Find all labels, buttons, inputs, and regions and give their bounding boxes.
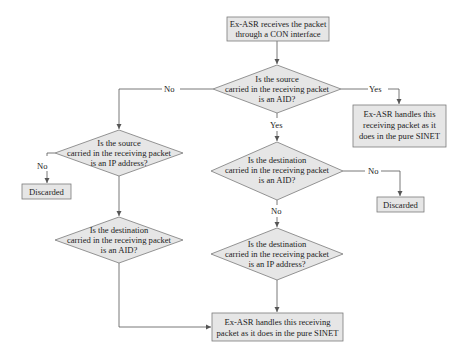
- edge-source-aid-no-b: [119, 89, 162, 129]
- edge-dest-aid-left-to-bottom: [119, 263, 211, 327]
- decision-source-ip-line-2: carried in the receiving packet: [67, 148, 172, 158]
- node-start-line-1: Ex-ASR receives the packet: [230, 19, 327, 29]
- decision-dest-aid-left-line-3: is an AID?: [101, 245, 138, 255]
- node-discarded-left-text: Discarded: [29, 187, 65, 197]
- decision-dest-ip-line-3: is an IP address?: [248, 259, 305, 269]
- decision-dest-ip-line-1: Is the destination: [248, 239, 307, 249]
- node-handle-right-line-1: Ex-ASR handles this: [363, 109, 436, 119]
- decision-source-ip-line-3: is an IP address?: [90, 158, 147, 168]
- node-handle-right-line-2: receiving packet as it: [363, 120, 436, 130]
- decision-dest-ip-line-2: carried in the receiving packet: [225, 249, 330, 259]
- decision-dest-aid-left-line-1: Is the destination: [90, 225, 149, 235]
- decision-dest-ip: Is the destination carried in the receiv…: [211, 228, 343, 280]
- node-start-box: Ex-ASR receives the packet through a CON…: [227, 17, 329, 41]
- node-discarded-right: Discarded: [377, 197, 424, 212]
- node-discarded-left: Discarded: [22, 184, 71, 199]
- node-handle-right-line-3: does in the pure SINET: [359, 131, 441, 141]
- node-handle-pure-sinet-right: Ex-ASR handles this receiving packet as …: [353, 105, 446, 147]
- decision-source-aid: Is the source carried in the receiving p…: [213, 65, 341, 113]
- decision-source-aid-line-3: is an AID?: [259, 94, 296, 104]
- decision-dest-aid-mid-line-3: is an AID?: [259, 175, 296, 185]
- decision-source-ip: Is the source carried in the receiving p…: [55, 130, 183, 176]
- label-source-aid-yes-down: Yes: [270, 120, 283, 130]
- edge-source-ip-no-a: [47, 153, 55, 156]
- label-dest-aid-mid-no-right: No: [368, 166, 379, 176]
- decision-source-aid-line-2: carried in the receiving packet: [225, 84, 330, 94]
- decision-source-aid-line-1: Is the source: [255, 74, 299, 84]
- decision-dest-aid-left-line-2: carried in the receiving packet: [67, 235, 172, 245]
- node-discarded-right-text: Discarded: [383, 200, 419, 210]
- label-dest-aid-mid-no-down: No: [271, 206, 282, 216]
- label-source-ip-no: No: [37, 161, 48, 171]
- node-handle-pure-sinet-bottom: Ex-ASR handles this receiving packet as …: [212, 313, 343, 341]
- label-source-aid-yes-right: Yes: [369, 84, 382, 94]
- node-handle-bottom-line-1: Ex-ASR handles this receiving: [224, 317, 331, 327]
- edge-source-aid-yes-right-b: [388, 89, 399, 104]
- node-start-line-2: through a CON interface: [235, 29, 320, 39]
- decision-dest-aid-mid: Is the destination carried in the receiv…: [211, 142, 343, 200]
- flowchart-canvas: No Yes Yes No No No Ex-ASR receives the …: [0, 0, 460, 356]
- edge-dest-aid-mid-no-right-b: [381, 171, 400, 196]
- label-source-aid-no: No: [164, 84, 175, 94]
- decision-dest-aid-left: Is the destination carried in the receiv…: [55, 217, 183, 263]
- node-handle-bottom-line-2: packet as it does in the pure SINET: [217, 328, 340, 338]
- decision-dest-aid-mid-line-2: carried in the receiving packet: [225, 165, 330, 175]
- connectors: [47, 41, 400, 327]
- decision-dest-aid-mid-line-1: Is the destination: [248, 155, 307, 165]
- decision-source-ip-line-1: Is the source: [97, 138, 141, 148]
